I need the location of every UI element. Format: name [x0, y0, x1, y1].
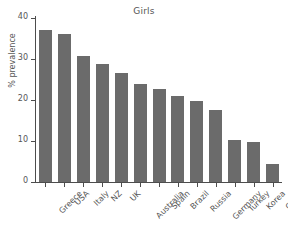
- x-tick-label: Brazil: [188, 189, 210, 211]
- bar: [247, 142, 260, 182]
- x-tick-mark: [197, 183, 198, 187]
- x-tick-mark: [178, 183, 179, 187]
- bar: [153, 89, 166, 182]
- y-tick-mark: [31, 18, 35, 19]
- x-tick-mark: [64, 183, 65, 187]
- bar: [96, 64, 109, 182]
- bar: [115, 73, 128, 182]
- x-tick-label: NZ: [110, 189, 124, 203]
- bar: [39, 30, 52, 182]
- bar: [134, 84, 147, 182]
- x-tick-mark: [216, 183, 217, 187]
- bar: [228, 140, 241, 182]
- x-tick-mark: [45, 183, 46, 187]
- y-tick-mark: [31, 59, 35, 60]
- x-tick-mark: [235, 183, 236, 187]
- y-tick-label: 0: [0, 177, 28, 185]
- bar-chart: Girls % prevalence 010203040 GreeceUSAIt…: [0, 0, 288, 227]
- y-tick-label: 20: [0, 95, 28, 103]
- y-tick-mark: [31, 141, 35, 142]
- x-tick-mark: [83, 183, 84, 187]
- x-tick-mark: [159, 183, 160, 187]
- chart-title: Girls: [0, 6, 288, 16]
- y-tick-mark: [31, 182, 35, 183]
- y-tick-label: 30: [0, 54, 28, 62]
- x-tick-mark: [121, 183, 122, 187]
- bar: [171, 96, 184, 183]
- x-tick-mark: [140, 183, 141, 187]
- y-tick-mark: [31, 100, 35, 101]
- bar: [190, 101, 203, 182]
- bar: [77, 56, 90, 182]
- bar: [209, 110, 222, 182]
- plot-area: [36, 18, 282, 182]
- bar: [58, 34, 71, 182]
- bar: [266, 164, 279, 182]
- x-tick-label: Spain: [170, 189, 192, 211]
- x-tick-label: Russia: [208, 189, 233, 214]
- x-tick-mark: [102, 183, 103, 187]
- x-tick-mark: [273, 183, 274, 187]
- y-tick-label: 40: [0, 13, 28, 21]
- y-tick-label: 10: [0, 136, 28, 144]
- x-tick-label: Italy: [92, 189, 111, 208]
- x-tick-label: UK: [128, 189, 142, 203]
- x-tick-mark: [254, 183, 255, 187]
